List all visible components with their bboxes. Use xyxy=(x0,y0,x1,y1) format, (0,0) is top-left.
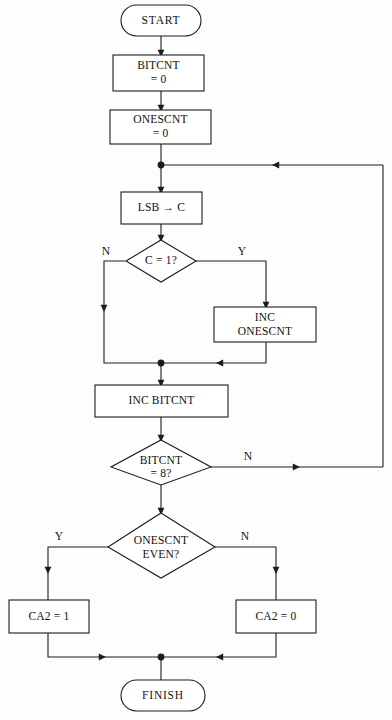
node-finish[interactable]: FINISH xyxy=(121,680,205,711)
arrowhead-even-no-down xyxy=(273,567,280,574)
edge-ca2-clear-to-finish xyxy=(161,633,276,657)
bitcnt-init-line2: = 0 xyxy=(151,73,167,85)
node-bitcnt-init[interactable]: BITCNT = 0 xyxy=(113,55,204,91)
branch-label-bitcnt-no: N xyxy=(244,450,253,462)
arrowhead-inc-onescnt-merge xyxy=(216,360,223,367)
arrowhead-ca2-set-right xyxy=(99,654,106,661)
bitcnt-init-line1: BITCNT xyxy=(137,59,180,71)
node-onescnt-init[interactable]: ONESCNT = 0 xyxy=(110,110,211,144)
node-ca2-set[interactable]: CA2 = 1 xyxy=(9,600,89,633)
arrowhead-even-yes-down xyxy=(45,567,52,574)
branch-label-even-no: N xyxy=(241,530,250,542)
arrowhead-c-no-down xyxy=(101,305,108,312)
inc-bitcnt-label: INC BITCNT xyxy=(128,394,194,406)
branch-label-c-yes: Y xyxy=(238,245,247,257)
node-lsb-to-c[interactable]: LSB → C xyxy=(121,192,202,224)
ca2-clear-label: CA2 = 0 xyxy=(255,610,296,622)
flowchart-svg: START BITCNT = 0 ONESCNT = 0 LSB → C C =… xyxy=(0,0,392,720)
onescnt-init-line2: = 0 xyxy=(153,127,169,139)
lsb-to-c-label: LSB → C xyxy=(138,201,186,213)
onescnt-even-line2: EVEN? xyxy=(143,548,180,560)
c-eq-1-label: C = 1? xyxy=(145,254,177,266)
arrowhead-bitcnt-no-right xyxy=(293,464,300,471)
connector-layer xyxy=(45,36,383,680)
node-bitcnt-eq-8[interactable]: BITCNT = 8? xyxy=(111,440,211,485)
ca2-set-label: CA2 = 1 xyxy=(28,610,69,622)
finish-label: FINISH xyxy=(142,689,184,701)
branch-label-even-yes: Y xyxy=(55,530,64,542)
node-onescnt-even[interactable]: ONESCNT EVEN? xyxy=(108,513,215,578)
bitcnt-eq-8-line2: = 8? xyxy=(150,467,171,479)
inc-onescnt-line2: ONESCNT xyxy=(238,325,292,337)
node-ca2-clear[interactable]: CA2 = 0 xyxy=(236,600,316,633)
edge-even-yes-to-ca2-set xyxy=(48,547,108,600)
edge-ca2-set-to-finish xyxy=(48,633,161,657)
edge-inc-onescnt-to-merge xyxy=(161,342,266,363)
node-inc-onescnt[interactable]: INC ONESCNT xyxy=(214,307,316,342)
node-c-eq-1[interactable]: C = 1? xyxy=(126,240,196,282)
edge-c-yes-to-inc-onescnt xyxy=(196,261,266,307)
bitcnt-eq-8-line1: BITCNT xyxy=(140,454,183,466)
onescnt-even-line1: ONESCNT xyxy=(134,534,188,546)
onescnt-init-line1: ONESCNT xyxy=(133,113,187,125)
node-start[interactable]: START xyxy=(121,5,201,36)
inc-onescnt-line1: INC xyxy=(255,311,276,323)
start-label: START xyxy=(142,14,181,26)
arrowhead-loopback-horizontal xyxy=(272,162,279,169)
flowchart-canvas: START BITCNT = 0 ONESCNT = 0 LSB → C C =… xyxy=(0,0,392,720)
arrowhead-ca2-clear-left xyxy=(216,654,223,661)
branch-label-c-no: N xyxy=(102,245,111,257)
node-inc-bitcnt[interactable]: INC BITCNT xyxy=(95,385,228,417)
edge-even-no-to-ca2-clear xyxy=(215,547,276,600)
